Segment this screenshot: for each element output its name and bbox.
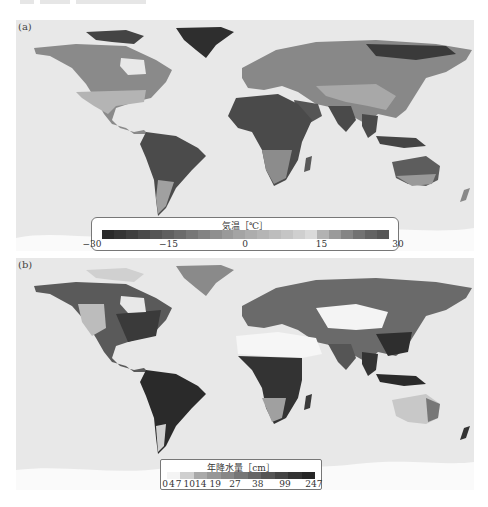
colorbar-swatch bbox=[167, 472, 180, 479]
colorbar-tick-label: 7 bbox=[176, 479, 182, 489]
temperature-colorbar-ticks: −30−1501530 bbox=[92, 239, 398, 249]
colorbar-swatch bbox=[233, 230, 245, 239]
colorbar-swatch bbox=[281, 230, 293, 239]
colorbar-swatch bbox=[174, 230, 186, 239]
colorbar-swatch bbox=[377, 230, 389, 239]
colorbar-swatch bbox=[317, 230, 329, 239]
precipitation-legend: 年降水量［cm］ 047101419273899247 bbox=[160, 459, 322, 490]
colorbar-tick-label: 14 bbox=[195, 479, 206, 489]
colorbar-tick-label: 247 bbox=[305, 479, 322, 489]
colorbar-swatch bbox=[207, 472, 220, 479]
colorbar-swatch bbox=[353, 230, 365, 239]
colorbar-swatch bbox=[194, 472, 207, 479]
temperature-legend: 気温［℃］ −30−1501530 bbox=[91, 217, 399, 251]
colorbar-swatch bbox=[102, 230, 114, 239]
colorbar-swatch bbox=[288, 472, 301, 479]
colorbar-tick-label: 15 bbox=[316, 239, 327, 249]
colorbar-swatch bbox=[114, 230, 126, 239]
colorbar-swatch bbox=[248, 472, 261, 479]
colorbar-swatch bbox=[162, 230, 174, 239]
colorbar-tick-label: 0 bbox=[162, 479, 168, 489]
colorbar-swatch bbox=[261, 472, 274, 479]
colorbar-swatch bbox=[305, 230, 317, 239]
temperature-map-panel: (a) 気温［℃］ −30−1501530 bbox=[16, 20, 474, 251]
colorbar-tick-label: −30 bbox=[83, 239, 102, 249]
temperature-colorbar bbox=[102, 230, 389, 239]
colorbar-swatch bbox=[365, 230, 377, 239]
colorbar-swatch bbox=[269, 230, 281, 239]
colorbar-swatch bbox=[150, 230, 162, 239]
colorbar-swatch bbox=[234, 472, 247, 479]
colorbar-swatch bbox=[275, 472, 288, 479]
colorbar-tick-label: 0 bbox=[242, 239, 248, 249]
panel-label-b: (b) bbox=[18, 259, 32, 270]
colorbar-tick-label: 4 bbox=[169, 479, 175, 489]
colorbar-swatch bbox=[126, 230, 138, 239]
colorbar-swatch bbox=[341, 230, 353, 239]
precipitation-map-panel: (b) 年降水量［cm］ 047101419273899247 bbox=[16, 258, 474, 490]
colorbar-swatch bbox=[210, 230, 222, 239]
colorbar-swatch bbox=[186, 230, 198, 239]
precipitation-world-map bbox=[16, 258, 474, 490]
colorbar-swatch bbox=[257, 230, 269, 239]
colorbar-tick-label: 19 bbox=[209, 479, 220, 489]
colorbar-swatch bbox=[245, 230, 257, 239]
colorbar-tick-label: 30 bbox=[392, 239, 403, 249]
page-header-strip bbox=[20, 0, 180, 6]
colorbar-tick-label: 99 bbox=[279, 479, 290, 489]
colorbar-tick-label: 38 bbox=[252, 479, 263, 489]
colorbar-tick-label: −15 bbox=[159, 239, 178, 249]
colorbar-swatch bbox=[329, 230, 341, 239]
colorbar-swatch bbox=[222, 230, 234, 239]
colorbar-swatch bbox=[293, 230, 305, 239]
precipitation-colorbar-ticks: 047101419273899247 bbox=[165, 479, 317, 489]
precipitation-colorbar bbox=[167, 472, 315, 479]
colorbar-swatch bbox=[138, 230, 150, 239]
colorbar-swatch bbox=[221, 472, 234, 479]
colorbar-swatch bbox=[180, 472, 193, 479]
colorbar-swatch bbox=[302, 472, 315, 479]
colorbar-tick-label: 10 bbox=[184, 479, 195, 489]
colorbar-tick-label: 27 bbox=[229, 479, 240, 489]
colorbar-swatch bbox=[198, 230, 210, 239]
panel-label-a: (a) bbox=[18, 21, 32, 32]
